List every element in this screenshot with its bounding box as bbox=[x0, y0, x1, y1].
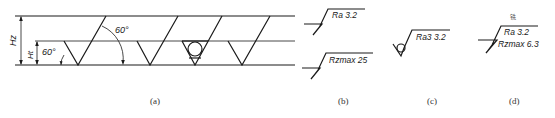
ht-dimension: Ht bbox=[26, 41, 39, 65]
panel-a: Hz Ht 60° 60° (a) bbox=[8, 16, 295, 106]
basic-surface-symbol-icon bbox=[228, 16, 270, 65]
angle-label-upper: 60° bbox=[115, 25, 129, 35]
surface-roughness-diagram: Hz Ht 60° 60° (a) Ra 3.2 R bbox=[0, 0, 555, 118]
angle-label-lower: 60° bbox=[42, 47, 56, 57]
symbol-c-text: Ra3 3.2 bbox=[416, 32, 446, 42]
caption-c: (c) bbox=[427, 96, 437, 106]
symbol-b1-text: Ra 3.2 bbox=[332, 10, 357, 20]
basic-surface-symbol-icon bbox=[64, 16, 106, 65]
hz-label: Hz bbox=[8, 35, 18, 46]
process-note: 铣 bbox=[510, 13, 516, 21]
symbol-b2-text: Rzmax 25 bbox=[329, 55, 368, 65]
symbol-d-line1: Ra 3.2 bbox=[504, 27, 529, 37]
hz-dimension: Hz bbox=[8, 16, 23, 65]
caption-b: (b) bbox=[338, 96, 349, 106]
panel-b: Ra 3.2 Rzmax 25 (b) bbox=[302, 9, 373, 106]
caption-d: (d) bbox=[509, 96, 520, 106]
ht-label: Ht bbox=[26, 50, 35, 59]
symbol-d-line2: Rzmax 6.3 bbox=[498, 39, 539, 49]
panel-c: Ra3 3.2 (c) bbox=[393, 30, 450, 106]
basic-surface-symbol-icon bbox=[137, 16, 178, 65]
caption-a: (a) bbox=[150, 96, 160, 106]
panel-d: 铣 Ra 3.2 Rzmax 6.3 (d) bbox=[478, 13, 539, 106]
